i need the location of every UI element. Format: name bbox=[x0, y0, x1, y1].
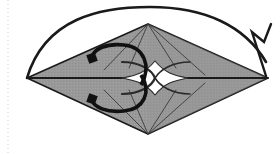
origami-diagram-svg bbox=[0, 0, 280, 154]
diagram-canvas: Flattened square base with central star … bbox=[0, 0, 280, 154]
